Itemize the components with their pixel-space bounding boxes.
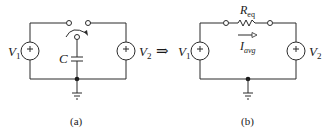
voltage-source-v1-icon bbox=[191, 42, 209, 60]
label-v1-b: V1 bbox=[178, 44, 190, 61]
current-arrow-icon bbox=[238, 33, 257, 38]
label-v2: V2 bbox=[139, 44, 151, 61]
voltage-source-v2-icon bbox=[117, 42, 135, 60]
terminal-left bbox=[224, 21, 229, 26]
terminal-right bbox=[268, 21, 273, 26]
voltage-source-v2-icon bbox=[287, 42, 305, 60]
caption-a: (a) bbox=[70, 115, 83, 128]
label-iavg: Iavg bbox=[239, 39, 256, 55]
switch-icon bbox=[66, 21, 91, 40]
voltage-source-v1-icon bbox=[21, 42, 39, 60]
label-v1: V1 bbox=[8, 44, 20, 61]
caption-b: (b) bbox=[241, 115, 254, 128]
label-req: Req bbox=[239, 3, 255, 19]
circuit-diagram: V1 V2 C bbox=[0, 0, 326, 135]
ground-icon bbox=[243, 79, 253, 99]
circuit-a: V1 V2 C bbox=[8, 21, 151, 129]
circuit-b: Req Iavg V1 V2 bbox=[178, 3, 321, 128]
equivalence-arrow: ⇒ bbox=[156, 43, 169, 59]
capacitor-icon bbox=[71, 57, 83, 61]
ground-icon bbox=[72, 79, 82, 99]
resistor-icon bbox=[238, 20, 255, 26]
label-c: C bbox=[59, 51, 68, 66]
label-v2-b: V2 bbox=[309, 44, 321, 61]
